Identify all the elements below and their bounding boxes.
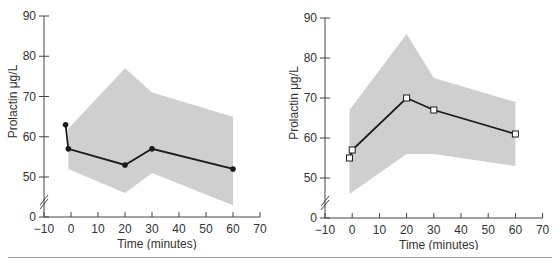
- data-point: [349, 147, 355, 153]
- x-tick-label: 40: [454, 223, 468, 237]
- x-tick-label: −10: [34, 222, 55, 236]
- y-axis-label: Prolactin μg/L: [6, 64, 20, 138]
- x-tick-label: 70: [253, 222, 267, 236]
- x-tick-label: 30: [427, 223, 441, 237]
- y-tick-label: 60: [304, 131, 318, 145]
- data-point: [346, 155, 352, 161]
- y-tick-label: 60: [23, 130, 37, 144]
- y-tick-label: 70: [23, 90, 37, 104]
- x-tick-label: 60: [226, 222, 240, 236]
- y-tick-label: 80: [23, 49, 37, 63]
- y-tick-label: 80: [304, 51, 318, 65]
- x-tick-label: 70: [536, 223, 550, 237]
- x-axis-label: Time (minutes): [399, 238, 479, 250]
- bottom-divider: [8, 257, 552, 258]
- x-axis-label: Time (minutes): [117, 237, 197, 250]
- y-axis-label: Prolactin μg/L: [287, 66, 301, 140]
- chart-right: 05060708090−10010203040506070Time (minut…: [280, 0, 560, 250]
- data-point: [122, 162, 128, 168]
- x-tick-label: 50: [482, 223, 496, 237]
- data-point: [230, 166, 236, 172]
- chart-left-svg: 05060708090−10010203040506070Time (minut…: [0, 0, 280, 250]
- data-point: [66, 146, 72, 152]
- y-tick-label: 50: [304, 171, 318, 185]
- x-tick-label: 20: [118, 222, 132, 236]
- confidence-band: [349, 34, 515, 194]
- chart-right-svg: 05060708090−10010203040506070Time (minut…: [280, 0, 560, 250]
- data-point: [431, 107, 437, 113]
- x-tick-label: 40: [172, 222, 186, 236]
- y-tick-label: 50: [23, 170, 37, 184]
- chart-left: 05060708090−10010203040506070Time (minut…: [0, 0, 280, 250]
- x-tick-label: 0: [349, 223, 356, 237]
- y-tick-label: 90: [304, 11, 318, 25]
- x-tick-label: 30: [145, 222, 159, 236]
- y-tick-label: 70: [304, 91, 318, 105]
- x-tick-label: 50: [199, 222, 213, 236]
- x-tick-label: −10: [315, 223, 336, 237]
- x-tick-label: 0: [68, 222, 75, 236]
- data-point: [149, 146, 155, 152]
- x-tick-label: 10: [373, 223, 387, 237]
- data-point: [404, 95, 410, 101]
- x-tick-label: 20: [400, 223, 414, 237]
- data-point: [63, 122, 69, 128]
- data-point: [512, 131, 518, 137]
- confidence-band: [68, 68, 233, 205]
- x-tick-label: 10: [91, 222, 105, 236]
- x-tick-label: 60: [509, 223, 523, 237]
- y-tick-label: 90: [23, 9, 37, 23]
